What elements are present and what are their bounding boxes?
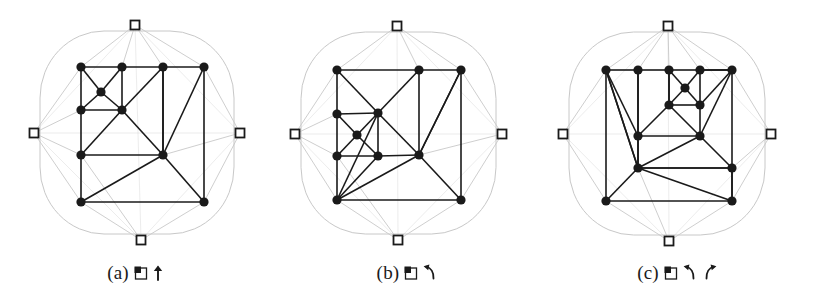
ccw-arrow-icon: [682, 264, 696, 281]
panel-b: (b): [271, 0, 542, 301]
cw-arrow-icon: [704, 264, 718, 281]
panel-b-canvas: [271, 0, 542, 250]
panel-a-caption-label: (a): [107, 263, 129, 282]
panel-c: (c): [542, 0, 813, 301]
panel-a-canvas: [0, 0, 271, 250]
ccw-arrow-icon: [422, 264, 436, 281]
panel-a-caption: (a): [0, 252, 271, 292]
square-refine-icon: [664, 265, 679, 280]
quadtree-refinement-figure: (a) (b): [0, 0, 813, 301]
panel-c-caption-label: (c): [637, 263, 659, 282]
panel-b-caption-label: (b): [377, 263, 400, 282]
square-refine-icon: [134, 265, 149, 280]
panel-c-caption: (c): [542, 252, 813, 292]
panel-c-canvas: [542, 0, 813, 250]
square-refine-icon: [404, 265, 419, 280]
panel-b-caption-glyphs: [404, 264, 436, 281]
panel-a: (a): [0, 0, 271, 301]
up-arrow-icon: [152, 264, 164, 281]
panel-a-caption-glyphs: [134, 264, 164, 281]
panel-c-caption-glyphs: [664, 264, 718, 281]
panel-b-caption: (b): [271, 252, 542, 292]
